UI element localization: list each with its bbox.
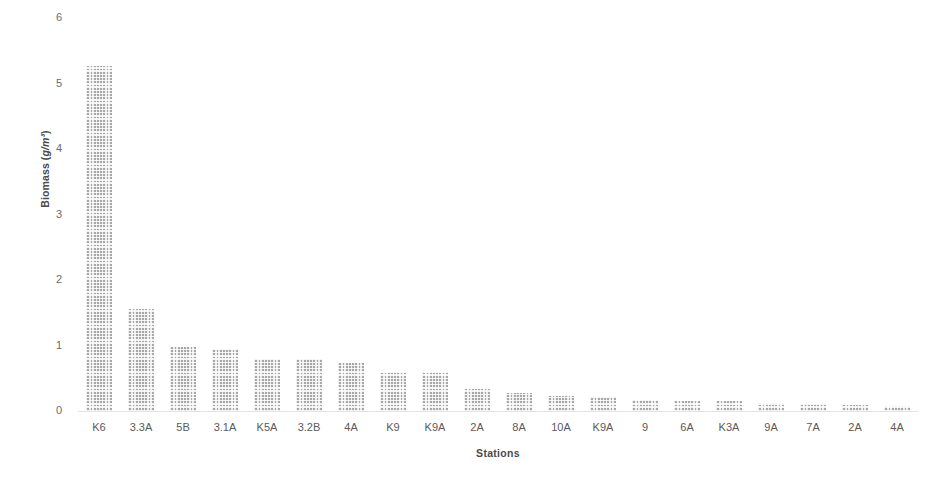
x-axis-tick-10: 8A — [498, 421, 540, 433]
bar-9-13[interactable] — [632, 400, 658, 411]
bar-slot — [624, 18, 666, 411]
y-axis-tick-6: 6 — [36, 11, 62, 23]
bar-slot — [582, 18, 624, 411]
bar-slot — [162, 18, 204, 411]
x-axis-tick-9: 2A — [456, 421, 498, 433]
x-axis-tick-14: 6A — [666, 421, 708, 433]
bar-k9-7[interactable] — [380, 372, 406, 411]
bar-3-2b-5[interactable] — [296, 359, 322, 411]
x-axis-tick-6: 4A — [330, 421, 372, 433]
x-axis-tick-17: 7A — [792, 421, 834, 433]
bar-3-3a-1[interactable] — [128, 309, 154, 411]
x-axis-tick-13: 9 — [624, 421, 666, 433]
bar-k5a-4[interactable] — [254, 359, 280, 411]
bar-slot — [414, 18, 456, 411]
x-axis-tick-2: 5B — [162, 421, 204, 433]
bar-slot — [78, 18, 120, 411]
y-axis-title-text-end: ) — [39, 130, 51, 134]
x-axis-tick-16: 9A — [750, 421, 792, 433]
x-axis-tick-11: 10A — [540, 421, 582, 433]
bar-slot — [498, 18, 540, 411]
x-axis-tick-12: K9A — [582, 421, 624, 433]
bar-k9a-8[interactable] — [422, 372, 448, 411]
bar-slot — [792, 18, 834, 411]
bar-2a-9[interactable] — [464, 389, 490, 411]
x-axis-tick-18: 2A — [834, 421, 876, 433]
bar-slot — [876, 18, 918, 411]
bar-slot — [540, 18, 582, 411]
bar-slot — [204, 18, 246, 411]
bar-k6-0[interactable] — [86, 66, 112, 411]
x-axis-tick-0: K6 — [78, 421, 120, 433]
y-axis-tick-2: 2 — [36, 273, 62, 285]
y-axis-tick-1: 1 — [36, 339, 62, 351]
bar-slot — [372, 18, 414, 411]
bar-9a-16[interactable] — [758, 403, 784, 412]
y-axis-tick-5: 5 — [36, 77, 62, 89]
x-axis-baseline — [78, 411, 918, 412]
bar-6a-14[interactable] — [674, 401, 700, 411]
bar-3-1a-3[interactable] — [212, 349, 238, 411]
x-axis-tick-15: K3A — [708, 421, 750, 433]
bar-2a-18[interactable] — [842, 405, 868, 411]
x-axis-tick-8: K9A — [414, 421, 456, 433]
x-axis-tick-1: 3.3A — [120, 421, 162, 433]
x-axis-tick-5: 3.2B — [288, 421, 330, 433]
bar-slot — [120, 18, 162, 411]
bar-k3a-15[interactable] — [716, 401, 742, 411]
y-axis-title-text: Biomass ( — [39, 157, 51, 208]
x-axis-title: Stations — [78, 447, 918, 459]
y-axis-tick-3: 3 — [36, 208, 62, 220]
bar-4a-19[interactable] — [884, 406, 910, 411]
x-axis-tick-7: K9 — [372, 421, 414, 433]
bar-slot — [456, 18, 498, 411]
bar-slot — [666, 18, 708, 411]
bar-4a-6[interactable] — [338, 363, 364, 411]
y-axis-tick-0: 0 — [36, 404, 62, 416]
x-axis-tick-4: K5A — [246, 421, 288, 433]
bar-slot — [708, 18, 750, 411]
bar-slot — [750, 18, 792, 411]
biomass-by-station-bar-chart: Biomass (g/m³) 0123456 K63.3A5B3.1AK5A3.… — [0, 0, 931, 485]
bar-slot — [246, 18, 288, 411]
plot-area — [78, 18, 918, 411]
bar-slot — [330, 18, 372, 411]
x-axis-tick-3: 3.1A — [204, 421, 246, 433]
bar-slot — [834, 18, 876, 411]
bar-10a-11[interactable] — [548, 396, 574, 411]
bar-5b-2[interactable] — [170, 347, 196, 411]
bar-7a-17[interactable] — [800, 404, 826, 411]
bar-8a-10[interactable] — [506, 393, 532, 411]
y-axis-tick-4: 4 — [36, 142, 62, 154]
bar-k9a-12[interactable] — [590, 397, 616, 411]
x-axis-tick-19: 4A — [876, 421, 918, 433]
bar-slot — [288, 18, 330, 411]
